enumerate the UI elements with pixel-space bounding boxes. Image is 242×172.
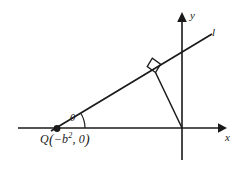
x-axis-label: x — [225, 132, 230, 143]
angle-arc — [81, 113, 85, 128]
point-q-label: Q(−b2, 0) — [40, 133, 90, 147]
point-q-coord-x-base: −b — [54, 132, 69, 146]
y-axis-label: y — [190, 10, 195, 21]
perpendicular-segment — [156, 73, 183, 129]
point-q-name: Q — [40, 132, 49, 146]
angle-theta-label: θ — [70, 114, 75, 123]
line-l-label: l — [212, 27, 215, 38]
point-q-dot — [54, 125, 61, 132]
geometry-figure: y x l θ Q(−b2, 0) — [0, 0, 242, 172]
point-q-close-paren: ) — [85, 132, 90, 147]
diagram-canvas — [0, 0, 242, 172]
y-axis-arrowhead — [177, 12, 187, 22]
y-axis — [177, 12, 187, 160]
